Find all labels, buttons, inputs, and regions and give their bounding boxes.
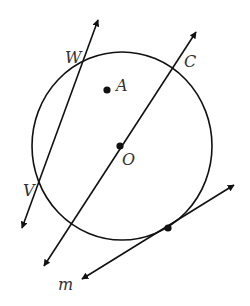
label-W: W bbox=[65, 48, 83, 67]
label-m: m bbox=[58, 275, 73, 294]
tangent-line-m bbox=[82, 185, 234, 279]
label-C: C bbox=[184, 52, 196, 71]
tangent-point-dot bbox=[164, 224, 171, 231]
point-O-dot bbox=[116, 142, 123, 149]
point-A-dot bbox=[103, 86, 110, 93]
geometry-diagram: W A C O V m bbox=[0, 0, 250, 306]
label-V: V bbox=[23, 181, 36, 200]
label-A: A bbox=[114, 76, 128, 95]
label-O: O bbox=[122, 150, 135, 169]
